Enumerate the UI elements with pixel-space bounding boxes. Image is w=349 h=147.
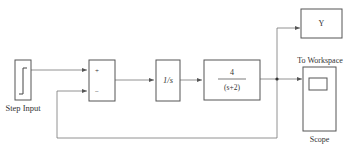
block-diagram-canvas: Step Input + − 1/s 4 (s+2) Y To Workspac… bbox=[0, 0, 349, 147]
integrator-block[interactable]: 1/s bbox=[156, 60, 180, 101]
branch-point bbox=[275, 77, 278, 80]
to-workspace-block[interactable]: Y bbox=[301, 9, 342, 38]
workspace-variable: Y bbox=[319, 19, 325, 28]
tf-denominator: (s+2) bbox=[224, 83, 240, 92]
scope-screen-icon bbox=[309, 78, 327, 90]
sum-block[interactable]: + − bbox=[89, 60, 115, 101]
tf-numerator: 4 bbox=[230, 68, 234, 77]
integrator-expression: 1/s bbox=[163, 75, 174, 85]
transfer-function-block[interactable]: 4 (s+2) bbox=[204, 60, 260, 100]
wire-branch-to-workspace[interactable] bbox=[277, 28, 300, 79]
scope-label: Scope bbox=[310, 135, 330, 144]
sum-plus-sign: + bbox=[95, 67, 99, 75]
sum-minus-sign: − bbox=[95, 88, 99, 96]
step-input-label: Step Input bbox=[5, 103, 41, 113]
scope-block[interactable] bbox=[303, 67, 336, 131]
to-workspace-label: To Workspace bbox=[297, 56, 343, 65]
step-input-block[interactable] bbox=[15, 60, 31, 100]
